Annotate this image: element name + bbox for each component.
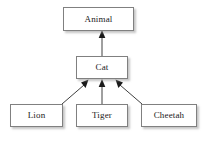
edge-tiger-to-cat bbox=[99, 79, 106, 104]
class-node-tiger-label: Tiger bbox=[92, 111, 112, 120]
class-node-tiger[interactable]: Tiger bbox=[76, 104, 128, 127]
class-node-cat[interactable]: Cat bbox=[76, 56, 128, 79]
class-node-cheetah-label: Cheetah bbox=[154, 111, 185, 120]
class-node-cat-label: Cat bbox=[96, 63, 109, 72]
class-node-lion-label: Lion bbox=[28, 111, 46, 120]
class-node-lion[interactable]: Lion bbox=[10, 104, 63, 127]
class-node-cheetah[interactable]: Cheetah bbox=[141, 104, 197, 127]
class-node-animal[interactable]: Animal bbox=[63, 7, 134, 31]
edge-lion-to-cat bbox=[62, 80, 89, 105]
edge-cheetah-to-cat bbox=[116, 80, 143, 105]
class-node-animal-label: Animal bbox=[85, 15, 113, 24]
edge-cat-to-animal bbox=[99, 30, 106, 56]
class-diagram-canvas: Animal Cat Lion Tiger Cheetah bbox=[0, 0, 204, 141]
